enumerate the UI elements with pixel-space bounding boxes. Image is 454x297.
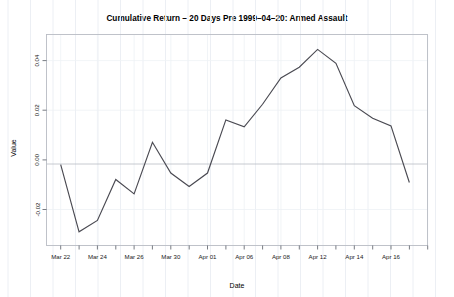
x-axis-tick-label: Mar 24	[88, 253, 108, 260]
x-axis-tick-label: Apr 14	[345, 253, 364, 260]
x-axis-tick-label: Mar 30	[161, 253, 181, 260]
y-axis-tick-label: -0.02	[34, 202, 41, 217]
y-axis-tick-label: 0.04	[34, 54, 41, 66]
x-axis-tick-label: Apr 06	[235, 253, 254, 260]
y-axis-tick-label: 0.02	[34, 104, 41, 116]
y-axis-tick-label: 0.00	[34, 153, 41, 165]
plot-panel-border	[47, 35, 428, 246]
x-axis-ticks: Mar 22Mar 24Mar 26Mar 30Apr 01Apr 06Apr …	[51, 246, 427, 260]
plot-gridlines	[47, 35, 428, 246]
x-axis-tick-label: Apr 01	[199, 253, 218, 260]
x-axis-tick-label: Mar 26	[125, 253, 145, 260]
x-axis-tick-label: Apr 12	[309, 253, 328, 260]
x-axis-title: Date	[230, 282, 245, 289]
x-axis-tick-label: Apr 08	[272, 253, 291, 260]
x-axis-tick-label: Apr 16	[382, 253, 401, 260]
y-axis-title: Value	[10, 139, 17, 156]
y-axis-ticks: -0.020.000.020.04	[34, 54, 47, 216]
chart-container: Cumulative Return – 20 Days Pre 1999–04–…	[0, 0, 454, 297]
chart-plot-area: -0.020.000.020.04 Mar 22Mar 24Mar 26Mar …	[0, 0, 454, 297]
x-axis-tick-label: Mar 22	[51, 253, 71, 260]
series-line-cumulative-return	[61, 49, 410, 231]
background-grid	[8, 0, 436, 297]
